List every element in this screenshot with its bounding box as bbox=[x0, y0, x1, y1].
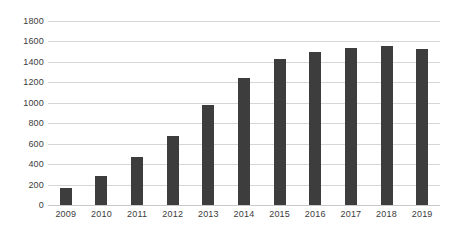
x-tick-label: 2018 bbox=[369, 209, 405, 219]
bar[interactable] bbox=[202, 105, 214, 205]
x-tick-label: 2017 bbox=[333, 209, 369, 219]
y-tick-label: 0 bbox=[39, 200, 44, 210]
bar[interactable] bbox=[381, 46, 393, 205]
bar-slot bbox=[333, 21, 369, 205]
x-axis: 2009201020112012201320142015201620172018… bbox=[48, 209, 440, 231]
y-tick-label: 400 bbox=[28, 159, 44, 169]
bar[interactable] bbox=[309, 52, 321, 205]
bar[interactable] bbox=[238, 78, 250, 205]
x-tick-label: 2009 bbox=[48, 209, 84, 219]
y-tick-label: 1400 bbox=[23, 57, 44, 67]
y-tick-label: 600 bbox=[28, 139, 44, 149]
bars-layer bbox=[48, 21, 440, 205]
bar-slot bbox=[119, 21, 155, 205]
y-tick-label: 1200 bbox=[23, 77, 44, 87]
bar-slot bbox=[369, 21, 405, 205]
gridline bbox=[48, 205, 440, 206]
bar-slot bbox=[84, 21, 120, 205]
bar[interactable] bbox=[345, 48, 357, 205]
y-tick-label: 1600 bbox=[23, 36, 44, 46]
x-tick-label: 2012 bbox=[155, 209, 191, 219]
x-tick-label: 2011 bbox=[119, 209, 155, 219]
bar-chart: 020040060080010001200140016001800 200920… bbox=[0, 0, 455, 242]
x-tick-label: 2019 bbox=[404, 209, 440, 219]
y-tick-label: 200 bbox=[28, 180, 44, 190]
bar[interactable] bbox=[416, 49, 428, 205]
x-tick-label: 2016 bbox=[297, 209, 333, 219]
bar[interactable] bbox=[131, 157, 143, 205]
y-axis: 020040060080010001200140016001800 bbox=[0, 21, 44, 205]
bar-slot bbox=[48, 21, 84, 205]
x-tick-label: 2010 bbox=[84, 209, 120, 219]
bar-slot bbox=[297, 21, 333, 205]
y-tick-label: 1800 bbox=[23, 16, 44, 26]
bar[interactable] bbox=[274, 59, 286, 205]
y-tick-label: 1000 bbox=[23, 98, 44, 108]
bar-slot bbox=[262, 21, 298, 205]
bar-slot bbox=[191, 21, 227, 205]
bar-slot bbox=[155, 21, 191, 205]
bar-slot bbox=[404, 21, 440, 205]
x-tick-label: 2015 bbox=[262, 209, 298, 219]
bar[interactable] bbox=[60, 188, 72, 205]
bar[interactable] bbox=[167, 136, 179, 205]
x-tick-label: 2014 bbox=[226, 209, 262, 219]
x-tick-label: 2013 bbox=[191, 209, 227, 219]
y-tick-label: 800 bbox=[28, 118, 44, 128]
bar[interactable] bbox=[95, 176, 107, 205]
bar-slot bbox=[226, 21, 262, 205]
